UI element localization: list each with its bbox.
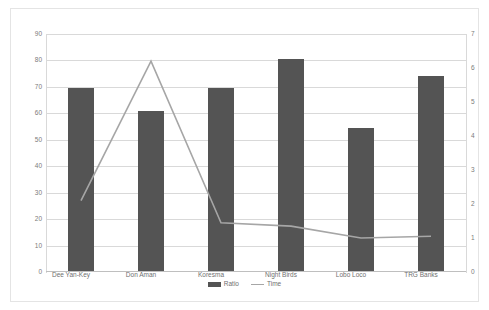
category-label: Dee Yan-Key — [52, 272, 90, 279]
left-axis-tick-label: 50 — [35, 137, 42, 144]
left-axis-tick-label: 80 — [35, 57, 42, 64]
category-axis-baseline — [46, 271, 466, 272]
right-axis-tick-label: 7 — [471, 31, 475, 38]
category-label: Don Aman — [126, 272, 156, 279]
right-axis-tick-label: 4 — [471, 133, 475, 140]
right-axis-tick-label: 3 — [471, 167, 475, 174]
plot-area: 0102030405060708090 01234567 — [46, 34, 466, 272]
right-axis-tick-label: 1 — [471, 235, 475, 242]
right-axis-line — [466, 34, 467, 273]
time-line-path — [81, 61, 431, 238]
left-axis-tick-label: 30 — [35, 189, 42, 196]
right-axis-tick-label: 0 — [471, 269, 475, 276]
legend-item[interactable]: Ratio — [208, 281, 239, 288]
legend-label: Time — [267, 281, 281, 288]
category-label: Night Birds — [265, 272, 297, 279]
chart-container: 0102030405060708090 01234567 Dee Yan-Key… — [0, 0, 489, 310]
chart-legend: RatioTime — [11, 281, 478, 288]
left-axis-tick-label: 40 — [35, 163, 42, 170]
chart-plot-frame: 0102030405060708090 01234567 Dee Yan-Key… — [10, 8, 479, 302]
right-axis-tick-label: 6 — [471, 65, 475, 72]
left-axis-tick-label: 0 — [38, 269, 42, 276]
legend-line-swatch-icon — [251, 284, 264, 285]
line-series-time — [46, 34, 466, 272]
left-axis-tick-label: 70 — [35, 84, 42, 91]
left-axis-tick-label: 20 — [35, 216, 42, 223]
legend-bar-swatch-icon — [208, 282, 221, 287]
left-axis-tick-label: 10 — [35, 242, 42, 249]
category-label: TRG Banks — [404, 272, 438, 279]
legend-item[interactable]: Time — [251, 281, 281, 288]
legend-label: Ratio — [224, 281, 239, 288]
right-axis-tick-label: 5 — [471, 99, 475, 106]
right-axis-tick-label: 2 — [471, 201, 475, 208]
category-label: Koresma — [198, 272, 224, 279]
category-label: Lobo Loco — [336, 272, 366, 279]
left-axis-tick-label: 60 — [35, 110, 42, 117]
left-axis-tick-label: 90 — [35, 31, 42, 38]
